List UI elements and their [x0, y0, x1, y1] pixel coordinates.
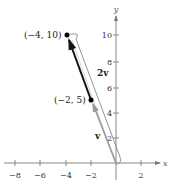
- y-tick-8: 8: [107, 58, 112, 67]
- vector-label-2v: 2v: [97, 68, 109, 78]
- x-tick-m8: −8: [9, 171, 21, 180]
- x-tick-2: 2: [138, 171, 143, 180]
- x-tick-m6: −6: [34, 171, 46, 180]
- x-axis-label: x: [163, 159, 168, 168]
- y-axis: [113, 16, 119, 180]
- x-tick-m2: −2: [85, 171, 97, 180]
- y-axis-label: y: [113, 5, 119, 14]
- x-axis: [4, 160, 160, 166]
- point-m4-10: [65, 33, 70, 38]
- vector-diagram: x −8 −6 −4 −2 2 y 2 4 6 8 10 (−4, 10) (−…: [0, 0, 177, 190]
- point-label-m2-5: (−2, 5): [54, 95, 86, 105]
- vector-label-v: v: [94, 131, 101, 141]
- y-tick-6: 6: [107, 84, 112, 93]
- y-tick-10: 10: [102, 31, 112, 40]
- y-tick-4: 4: [107, 109, 112, 118]
- point-label-m4-10: (−4, 10): [24, 30, 61, 40]
- x-tick-m4: −4: [60, 171, 72, 180]
- point-m2-5: [89, 98, 94, 103]
